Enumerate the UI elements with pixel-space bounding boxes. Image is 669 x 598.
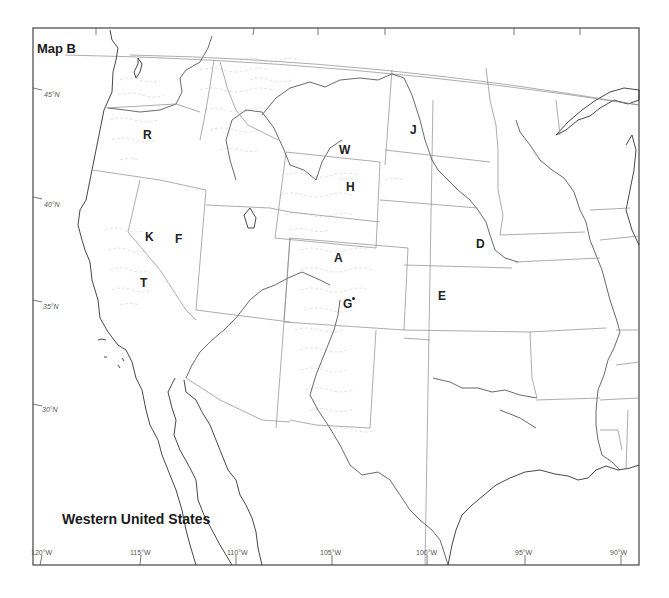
point-label-h: H: [346, 181, 355, 193]
base-map: [0, 0, 669, 598]
lake-michigan: [626, 135, 639, 245]
longitude-label-90: 90°W: [610, 549, 627, 556]
longitude-label-100: 100°W: [416, 549, 437, 556]
state-boundaries: [92, 55, 639, 470]
longitude-ticks: [40, 28, 621, 565]
point-label-d: D: [476, 238, 485, 250]
pacific-coastline: [78, 30, 196, 565]
point-marker-g: [352, 297, 355, 300]
channel-islands: [98, 339, 124, 368]
point-label-e: E: [438, 290, 446, 302]
longitude-label-120: 120°W: [31, 549, 52, 556]
puget-sound: [134, 58, 142, 78]
missouri-river: [262, 74, 518, 262]
map-frame: [33, 28, 639, 565]
point-label-a: A: [334, 252, 343, 264]
map-canvas: Map B Western United States 45°N 40°N 35…: [0, 0, 669, 598]
latitude-label-35: 35°N: [43, 303, 59, 310]
map-title: Map B: [37, 42, 76, 55]
snake-columbia-river: [108, 36, 212, 112]
point-label-t: T: [140, 277, 147, 289]
mississippi-river: [516, 120, 620, 470]
longitude-label-110: 110°W: [227, 549, 248, 556]
colorado-river: [186, 272, 330, 378]
latitude-label-40: 40°N: [44, 201, 60, 208]
point-label-j: J: [410, 124, 417, 136]
latitude-label-45: 45°N: [44, 91, 60, 98]
gulf-of-california: [168, 378, 232, 565]
latitude-label-30: 30°N: [42, 406, 58, 413]
mountain-hatching: [105, 58, 405, 432]
latitude-ticks: [33, 88, 42, 406]
red-river: [433, 378, 537, 398]
point-label-r: R: [143, 129, 152, 141]
longitude-label-115: 115°W: [130, 549, 151, 556]
great-salt-lake: [244, 208, 256, 228]
point-label-k: K: [145, 231, 154, 243]
point-label-w: W: [339, 144, 350, 156]
map-subtitle: Western United States: [62, 512, 210, 526]
longitude-label-95: 95°W: [515, 549, 532, 556]
lake-superior: [556, 88, 639, 135]
point-label-g: G: [343, 298, 352, 310]
point-label-f: F: [175, 233, 182, 245]
longitude-label-105: 105°W: [320, 549, 341, 556]
